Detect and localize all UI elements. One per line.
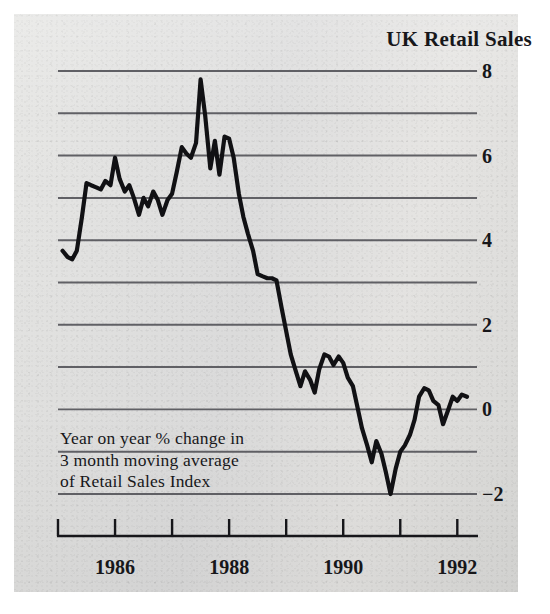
x-axis-tick-label: 1986 (95, 556, 135, 579)
y-axis-tick-label: 0 (482, 398, 492, 421)
y-axis-tick-label: 8 (482, 60, 492, 83)
chart-plot-area (0, 0, 550, 614)
y-axis-tick-label: −2 (482, 483, 503, 506)
chart-annotation: Year on year % change in 3 month moving … (60, 428, 244, 493)
figure-container: UK Retail Sales Year on year % change in… (0, 0, 550, 614)
y-axis-tick-label: 2 (482, 313, 492, 336)
y-axis-tick-label: 4 (482, 229, 492, 252)
y-axis-tick-label: 6 (482, 144, 492, 167)
x-axis-tick-label: 1992 (437, 556, 477, 579)
chart-title: UK Retail Sales (386, 27, 532, 52)
x-axis-tick-label: 1988 (209, 556, 249, 579)
x-axis-tick-label: 1990 (323, 556, 363, 579)
